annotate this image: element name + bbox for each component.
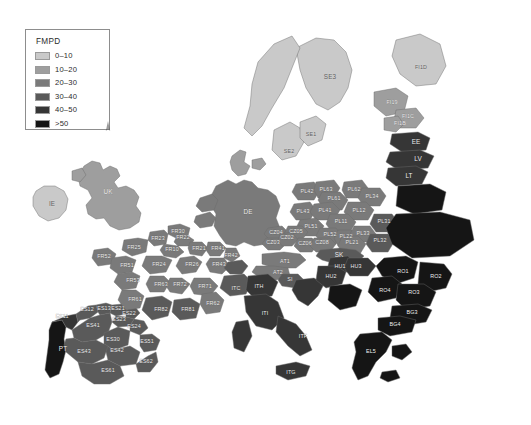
region-label-fr10: FR10 [165,246,179,252]
region-label-pl61: PL61 [328,195,341,201]
legend-swatch-1 [35,66,50,74]
region-label-cz02: CZ02 [280,234,294,240]
region-label-es30: ES30 [106,336,120,342]
region-label-uk: UK [103,188,113,195]
figure-container: IEUKSE3SE2SE1FI1DFI19FI1CFI1BEELVLTDEPL4… [0,0,531,425]
region-label-pt: PT [59,345,67,352]
legend-label-4: 40–50 [55,106,77,114]
region-label-es42: ES42 [110,347,124,353]
legend-item-2: 20–30 [35,77,109,89]
region-label-fi1c: FI1C [402,113,414,119]
legend-rows: 0–1010–2020–3030–4040–50>50 [35,50,109,130]
region-label-es62: ES62 [139,358,153,364]
legend-item-5: >50 [35,118,109,130]
region-label-fr22: FR22 [176,234,190,240]
legend-label-5: >50 [55,120,68,128]
region-label-fr82: FR82 [154,306,168,312]
legend-label-0: 0–10 [55,52,73,60]
region-label-lv: LV [414,155,422,162]
region-label-fr21: FR21 [192,245,206,251]
region-label-hu1: HU1 [334,263,345,269]
region-label-fr53: FR53 [126,277,140,283]
region-label-es11: ES11 [55,313,68,319]
region-label-fi1d: FI1D [415,64,427,70]
legend-item-3: 30–40 [35,91,109,103]
legend-swatch-3 [35,93,50,101]
region-label-ro3: RO3 [408,289,419,295]
region-label-pl21: PL21 [346,239,359,245]
region-label-ro4: RO4 [379,287,390,293]
region-label-se2: SE2 [284,148,295,154]
region-label-fr23: FR23 [151,235,165,241]
region-label-sk: SK [335,251,344,258]
figure-caption [0,403,531,425]
region-label-se3: SE3 [324,73,337,80]
region-label-pl43: PL43 [297,208,310,214]
region-label-es13: ES13 [97,305,111,311]
region-label-itg: ITG [286,369,295,375]
region-label-es61: ES61 [101,367,115,373]
region-label-fr52: FR52 [97,253,111,259]
region-label-pl33: PL33 [357,230,370,236]
legend-swatch-0 [35,52,50,60]
region-label-pl11: PL11 [335,218,348,224]
legend-title: FMPD [36,37,109,46]
region-label-pl32: PL32 [374,237,387,243]
region-label-pl41: PL41 [319,207,332,213]
legend-swatch-4 [35,106,50,114]
region-label-fr25: FR25 [127,244,141,250]
region-label-pl62: PL62 [348,186,361,192]
region-label-bg4: BG4 [389,321,400,327]
region-label-el5: EL5 [366,348,376,354]
region-label-fr43: FR43 [212,261,226,267]
legend-box: FMPD 0–1010–2020–3030–4040–50>50 [25,29,110,130]
region-label-es12: ES12 [80,306,94,312]
region-label-cz06: CZ06 [298,240,312,246]
region-label-itf: ITF [299,333,308,339]
region-by [396,184,446,214]
region-label-fr81: FR81 [181,306,195,312]
region-label-fr51: FR51 [120,262,134,268]
region-label-fr42: FR42 [224,252,238,258]
legend-swatch-5 [35,120,50,128]
region-label-si: SI [287,276,292,282]
legend-label-2: 20–30 [55,79,77,87]
region-label-ro2: RO2 [430,273,441,279]
legend-label-3: 30–40 [55,93,77,101]
region-label-ro1: RO1 [397,268,408,274]
region-label-se1: SE1 [306,131,317,137]
region-label-fr72: FR72 [173,281,187,287]
region-label-fr26: FR26 [185,261,199,267]
region-label-pl31: PL31 [378,218,391,224]
legend-label-1: 10–20 [55,66,77,74]
region-label-hu2: HU2 [325,273,336,279]
region-label-pl52: PL52 [324,231,337,237]
region-label-lt: LT [405,172,412,179]
legend-item-4: 40–50 [35,104,109,116]
region-label-ee: EE [412,138,421,145]
region-label-at1: AT1 [280,258,290,264]
north-arrow-icon [100,120,116,136]
region-label-fi1b: FI1B [394,120,406,126]
region-label-fr61: FR61 [128,296,142,302]
region-label-fr63: FR63 [154,281,168,287]
legend-item-1: 10–20 [35,64,109,76]
region-label-ith: ITH [255,283,264,289]
region-label-de: DE [243,208,252,215]
region-label-pl51: PL51 [305,223,318,229]
region-label-cz08: CZ08 [315,239,329,245]
region-label-fr41: FR41 [211,245,225,251]
region-label-hu3: HU3 [350,263,361,269]
region-label-pl34: PL34 [366,193,379,199]
region-label-pl12: PL12 [353,207,366,213]
region-label-at2: AT2 [273,269,283,275]
region-label-cz03: CZ03 [266,239,280,245]
region-label-es24: ES24 [127,323,141,329]
region-label-bg3: BG3 [406,309,417,315]
region-label-es51: ES51 [140,338,154,344]
region-label-itc: ITC [232,285,241,291]
region-label-pl42: PL42 [301,188,314,194]
region-label-ie: IE [49,200,55,207]
region-label-fr24: FR24 [152,261,166,267]
region-label-es23: ES23 [112,316,126,322]
